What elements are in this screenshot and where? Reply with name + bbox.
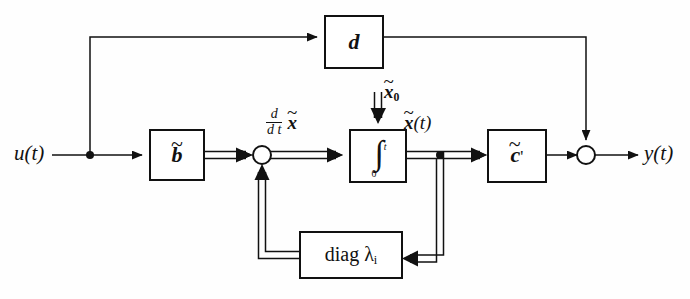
- initial-state-subscript: 0: [394, 91, 400, 104]
- diagonal-eigenvalue-block-label: diag λi: [300, 244, 402, 267]
- tilde-accent-x0: ~: [384, 72, 394, 91]
- arrowhead-state-sum-to-integrator: [327, 148, 343, 163]
- state-signal-label: ~ x (t): [404, 113, 431, 132]
- signal-state-branch-to-diag-inner: [410, 152, 444, 256]
- initial-state-label: ~ x 0: [384, 82, 399, 104]
- state-summing-junction[interactable]: [253, 146, 271, 164]
- derivative-denominator: d t: [266, 122, 282, 138]
- integral-upper-limit: t: [384, 141, 387, 152]
- feedthrough-block-label: d: [325, 31, 383, 53]
- signal-diag-to-state-sum-outer: [259, 172, 301, 259]
- output-vector-prime: ': [520, 147, 523, 166]
- integral-symbol: ∫: [374, 134, 383, 171]
- integral-lower-limit: 0: [371, 168, 376, 179]
- tilde-accent-b: ~: [171, 133, 183, 155]
- derivative-numerator: d: [266, 107, 282, 122]
- arrowhead-input-vector-to-state-sum: [236, 148, 252, 163]
- state-branch-node[interactable]: [436, 151, 444, 159]
- arrowhead-state-branch-to-diag: [402, 251, 418, 267]
- signal-diag-to-state-sum-inner: [266, 172, 301, 252]
- integrator-block-label: 0∫t: [350, 136, 406, 170]
- derivative-fraction: d d t: [266, 107, 282, 137]
- arrowhead-initial-state-to-integrator: [371, 108, 387, 124]
- signal-state-branch-to-diag-outer: [410, 159, 437, 263]
- input-terminal-label: u(t): [14, 143, 44, 164]
- input-vector-block-label: ~ b: [150, 144, 204, 166]
- tilde-accent-x: ~: [404, 103, 414, 122]
- state-derivative-label: d d t ~ x: [266, 107, 297, 137]
- output-summing-junction[interactable]: [577, 146, 595, 164]
- diag-text: diag λ: [325, 243, 374, 265]
- input-branch-node[interactable]: [86, 151, 94, 159]
- arrowhead-diag-to-state-sum: [255, 164, 270, 180]
- figure-canvas: u(t) y(t) d ~ b 0∫t ~ c ' diag λi d d t …: [0, 0, 690, 299]
- diag-subscript: i: [374, 253, 377, 267]
- arrowhead-state-branch-to-output-vector: [471, 148, 487, 163]
- output-vector-block-label: ~ c ': [488, 144, 546, 166]
- tilde-accent-xdot: ~: [287, 103, 297, 122]
- tilde-accent-c: ~: [509, 133, 521, 155]
- output-terminal-label: y(t): [644, 143, 673, 164]
- state-argument: (t): [414, 112, 432, 133]
